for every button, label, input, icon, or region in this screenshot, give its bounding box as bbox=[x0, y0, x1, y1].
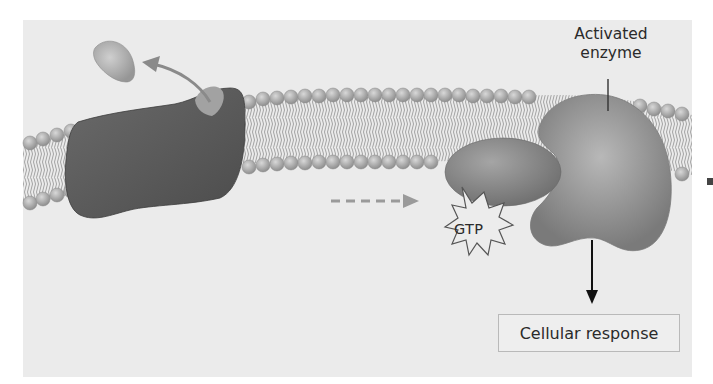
response-arrow bbox=[586, 240, 598, 304]
cellular-response-label: Cellular response bbox=[520, 324, 659, 343]
cellular-response-box: Cellular response bbox=[498, 314, 680, 352]
ligand-release-arrowhead bbox=[142, 56, 160, 72]
margin-marker bbox=[707, 178, 713, 185]
signaling-molecule bbox=[94, 41, 135, 82]
g-protein bbox=[445, 138, 561, 206]
dashed-arrow bbox=[331, 194, 419, 208]
activated-enzyme-label: Activated enzyme bbox=[573, 25, 649, 63]
gtp-label: GTP bbox=[454, 221, 483, 237]
